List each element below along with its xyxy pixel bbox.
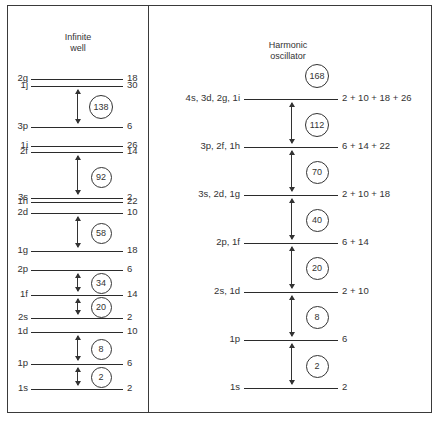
energy-level-line <box>244 388 338 389</box>
energy-level-line <box>31 79 123 80</box>
energy-level-line <box>31 146 123 147</box>
level-label: 1p <box>0 358 28 368</box>
double-arrow-icon <box>291 344 292 384</box>
title-line: Harmonic <box>253 40 323 51</box>
level-label: 2d <box>0 207 28 217</box>
level-label: 1s <box>0 383 28 393</box>
diagram-frame <box>7 5 432 413</box>
title-line: oscillator <box>253 51 323 62</box>
level-label: 2s <box>0 312 28 322</box>
energy-level-line <box>31 251 123 252</box>
degeneracy-label: 2 + 10 + 18 + 26 <box>342 93 411 103</box>
degeneracy-label: 30 <box>127 80 138 90</box>
panel-divider <box>148 5 149 413</box>
magic-number-circle: 8 <box>306 306 329 329</box>
energy-level-line <box>244 243 338 244</box>
degeneracy-label: 2 <box>127 312 132 322</box>
degeneracy-label: 18 <box>127 245 138 255</box>
infinite-well-title: Infinite well <box>48 32 108 54</box>
double-arrow-icon <box>291 199 292 239</box>
magic-number-circle: 34 <box>91 273 112 294</box>
energy-level-line <box>31 152 123 153</box>
level-label: 2p, 1f <box>150 237 240 247</box>
level-label: 2f <box>0 146 28 156</box>
level-label: 2s, 1d <box>150 286 240 296</box>
energy-level-line <box>31 213 123 214</box>
magic-number-circle: 20 <box>306 257 329 280</box>
level-label: 3p, 2f, 1h <box>150 141 240 151</box>
level-label: 1h <box>0 196 28 206</box>
level-label: 4s, 3d, 2g, 1i <box>150 93 240 103</box>
magic-number-circle: 92 <box>91 167 112 188</box>
magic-number-circle: 58 <box>91 223 112 244</box>
title-line: well <box>48 43 108 54</box>
double-arrow-icon <box>77 217 78 247</box>
energy-level-line <box>31 198 123 199</box>
magic-number-circle: 168 <box>305 64 329 88</box>
magic-number-circle: 138 <box>89 95 113 119</box>
degeneracy-label: 10 <box>127 207 138 217</box>
level-label: 1d <box>0 326 28 336</box>
double-arrow-icon <box>77 274 78 291</box>
energy-level-line <box>244 340 338 341</box>
degeneracy-label: 22 <box>127 196 138 206</box>
energy-level-line <box>31 389 123 390</box>
double-arrow-icon <box>291 103 292 143</box>
degeneracy-label: 2 <box>127 383 132 393</box>
level-label: 2p <box>0 264 28 274</box>
energy-level-line <box>31 86 123 87</box>
double-arrow-icon <box>77 156 78 194</box>
level-label: 1g <box>0 245 28 255</box>
magic-number-circle: 70 <box>306 161 329 184</box>
level-label: 1f <box>0 289 28 299</box>
level-label: 1j <box>0 80 28 90</box>
double-arrow-icon <box>77 336 78 360</box>
energy-level-line <box>31 295 123 296</box>
magic-number-circle: 40 <box>306 209 329 232</box>
double-arrow-icon <box>291 247 292 288</box>
double-arrow-icon <box>77 299 78 314</box>
double-arrow-icon <box>77 90 78 123</box>
magic-number-circle: 8 <box>91 339 112 360</box>
energy-level-line <box>31 127 123 128</box>
energy-level-line <box>244 99 338 100</box>
energy-level-line <box>31 318 123 319</box>
degeneracy-label: 6 + 14 + 22 <box>342 141 390 151</box>
energy-level-line <box>31 202 123 203</box>
degeneracy-label: 6 + 14 <box>342 237 369 247</box>
magic-number-circle: 20 <box>91 297 112 318</box>
magic-number-circle: 2 <box>306 355 329 378</box>
magic-number-circle: 112 <box>305 113 329 137</box>
degeneracy-label: 14 <box>127 146 138 156</box>
magic-number-circle: 2 <box>91 367 112 388</box>
title-line: Infinite <box>48 32 108 43</box>
degeneracy-label: 2 + 10 + 18 <box>342 189 390 199</box>
level-label: 3p <box>0 121 28 131</box>
level-label: 1s <box>150 382 240 392</box>
double-arrow-icon <box>291 296 292 336</box>
level-label: 3s, 2d, 1g <box>150 189 240 199</box>
degeneracy-label: 6 <box>127 358 132 368</box>
energy-level-line <box>244 147 338 148</box>
level-label: 1p <box>150 334 240 344</box>
degeneracy-label: 10 <box>127 326 138 336</box>
energy-level-line <box>31 332 123 333</box>
degeneracy-label: 2 <box>342 382 347 392</box>
degeneracy-label: 6 <box>127 264 132 274</box>
degeneracy-label: 2 + 10 <box>342 286 369 296</box>
degeneracy-label: 6 <box>342 334 347 344</box>
energy-level-line <box>244 292 338 293</box>
double-arrow-icon <box>291 151 292 191</box>
double-arrow-icon <box>77 368 78 385</box>
degeneracy-label: 6 <box>127 121 132 131</box>
energy-level-line <box>31 364 123 365</box>
energy-level-line <box>244 195 338 196</box>
degeneracy-label: 14 <box>127 289 138 299</box>
energy-level-line <box>31 270 123 271</box>
harmonic-oscillator-title: Harmonic oscillator <box>253 40 323 62</box>
